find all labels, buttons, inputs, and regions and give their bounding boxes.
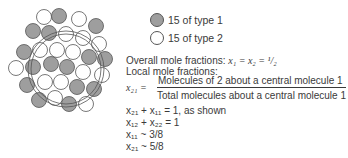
type1-molecule	[60, 60, 75, 75]
fraction-numerator: Molecules of 2 about a central molecule …	[157, 75, 346, 88]
legend-type1: 15 of type 1	[150, 13, 223, 27]
fraction-denominator: Total molecules about a central molecule…	[157, 88, 346, 101]
legend-type2: 15 of type 2	[150, 31, 223, 45]
type1-molecule	[82, 50, 97, 65]
type1-molecule	[44, 57, 59, 72]
type1-molecule	[52, 9, 67, 24]
type2-molecule	[54, 75, 69, 90]
equation-2: x₁₂ + x₂₂ = 1	[126, 118, 179, 128]
equation-4: x₂₁ ~ 5/8	[126, 142, 164, 152]
type2-molecule	[9, 61, 24, 76]
type2-molecule	[33, 43, 48, 58]
x21-lhs: x₂₁ =	[126, 83, 147, 93]
type2-molecule	[72, 12, 87, 27]
type2-molecule	[50, 43, 65, 58]
type1-molecule	[89, 19, 104, 34]
type2-molecule-icon	[150, 31, 164, 45]
type2-molecule	[37, 10, 52, 25]
type2-molecule	[66, 45, 81, 60]
legend-type1-label: 15 of type 1	[168, 14, 223, 26]
legend-type2-label: 15 of type 2	[168, 32, 223, 44]
equation-1: x₂₁ + x₁₁ = 1, as shown	[126, 106, 226, 116]
type2-molecule	[92, 37, 107, 52]
type1-molecule	[26, 24, 41, 39]
x21-fraction: Molecules of 2 about a central molecule …	[157, 75, 346, 101]
overall-mole-fractions: Overall mole fractions: x₁ = x₂ = ¹/₂	[126, 56, 277, 66]
type1-molecule	[70, 80, 85, 95]
overall-equation: x₁ = x₂ = ¹/₂	[228, 55, 277, 66]
type2-molecule	[38, 75, 53, 90]
type1-molecule-icon	[150, 13, 164, 27]
molecule-cluster-diagram	[0, 0, 130, 120]
equation-3: x₁₁ ~ 3/8	[126, 130, 163, 140]
type1-molecule	[20, 78, 35, 93]
overall-label: Overall mole fractions:	[126, 55, 225, 66]
type1-molecule	[17, 45, 32, 60]
type2-molecule	[76, 65, 91, 80]
